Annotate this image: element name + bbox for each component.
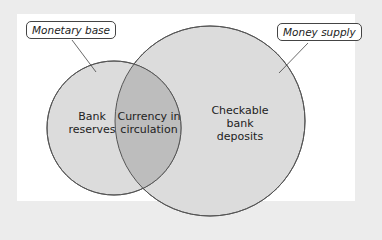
checkable-deposits-label: Checkable bank deposits	[205, 104, 275, 143]
currency-in-circulation-label: Currency in circulation	[115, 110, 183, 136]
monetary-base-leader-line	[72, 40, 96, 72]
money-supply-callout: Money supply	[277, 23, 362, 41]
monetary-base-callout: Monetary base	[26, 21, 116, 39]
money-supply-leader-line	[279, 43, 308, 73]
bank-reserves-label: Bank reserves	[62, 110, 122, 136]
